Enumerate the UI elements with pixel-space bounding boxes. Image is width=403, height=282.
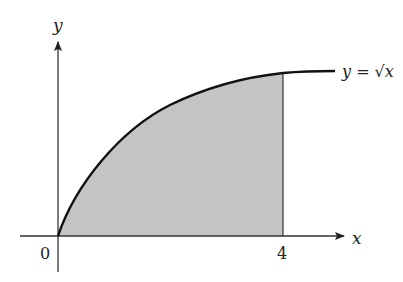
- origin-tick-label: 0: [40, 244, 50, 263]
- x4-tick-label: 4: [277, 244, 287, 263]
- x-axis-label: x: [352, 228, 362, 248]
- function-label: y = √x: [341, 62, 394, 81]
- graph-figure: y x 0 4 y = √x: [0, 0, 403, 282]
- shaded-area: [58, 73, 283, 236]
- y-axis-label: y: [52, 15, 63, 35]
